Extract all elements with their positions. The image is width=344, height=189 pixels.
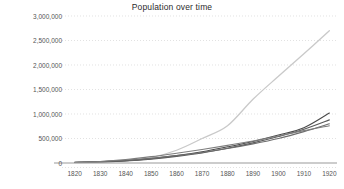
x-tick-label: 1840 xyxy=(118,170,132,177)
x-tick-label: 1830 xyxy=(93,170,107,177)
x-tick-label: 1880 xyxy=(220,170,234,177)
x-tick-label: 1870 xyxy=(195,170,209,177)
x-tick-label: 1820 xyxy=(67,170,81,177)
x-axis-tick-labels: 1820183018401850186018701880189019001910… xyxy=(0,0,344,189)
x-tick-label: 1920 xyxy=(322,170,336,177)
x-tick-label: 1890 xyxy=(246,170,260,177)
x-tick-label: 1850 xyxy=(144,170,158,177)
x-tick-label: 1860 xyxy=(169,170,183,177)
x-tick-label: 1910 xyxy=(297,170,311,177)
chart-container: Population over time 0500,0001,000,0001,… xyxy=(0,0,344,189)
x-tick-label: 1900 xyxy=(271,170,285,177)
